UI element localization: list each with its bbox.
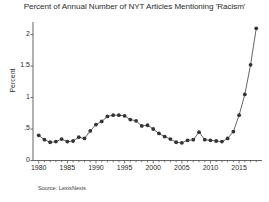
- x-tick-label: 2015: [224, 164, 254, 171]
- x-tick-label: 1985: [52, 164, 82, 171]
- x-tick-label: 2000: [138, 164, 168, 171]
- x-tick-label: 2005: [167, 164, 197, 171]
- x-tick-label: 2010: [195, 164, 225, 171]
- x-tick-label: 1995: [110, 164, 140, 171]
- x-tick-label: 1990: [81, 164, 111, 171]
- source-note: Source: LexisNexis: [38, 185, 86, 191]
- x-tick-label: 1980: [24, 164, 54, 171]
- x-axis-tick-labels: 19801985199019952000200520102015: [0, 0, 269, 202]
- chart-figure: Percent of Annual Number of NYT Articles…: [0, 0, 269, 202]
